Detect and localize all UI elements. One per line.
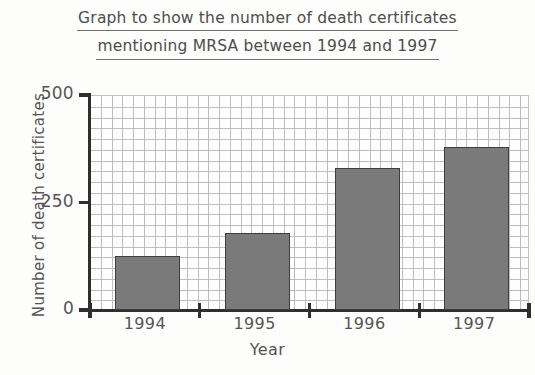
chart-title: Graph to show the number of death certif… xyxy=(0,6,535,60)
gridline-vertical xyxy=(327,96,328,311)
chart-title-line-1: Graph to show the number of death certif… xyxy=(77,7,458,31)
gridline-vertical xyxy=(112,96,113,311)
gridline-vertical xyxy=(198,96,199,311)
y-axis-title: Number of death certificates xyxy=(30,90,48,320)
x-axis-tick-label: 1994 xyxy=(105,314,185,333)
gridline-vertical xyxy=(305,96,306,311)
x-axis-title: Year xyxy=(0,340,535,359)
bar-1997 xyxy=(444,147,509,310)
bar-1994 xyxy=(115,256,180,310)
x-axis-tick xyxy=(198,303,201,318)
chart-title-line-2: mentioning MRSA between 1994 and 1997 xyxy=(96,35,438,59)
y-axis-tick xyxy=(79,93,91,96)
gridline-vertical xyxy=(413,96,414,311)
gridline-vertical xyxy=(208,96,209,311)
gridline-vertical xyxy=(402,96,403,311)
gridline-vertical xyxy=(316,96,317,311)
x-axis-tick-label: 1997 xyxy=(434,314,514,333)
x-axis-tick xyxy=(308,303,311,318)
bar-1995 xyxy=(225,233,290,310)
gridline-vertical xyxy=(294,96,295,311)
x-axis-tick xyxy=(527,303,530,318)
gridline-vertical xyxy=(434,96,435,311)
y-axis-tick xyxy=(79,201,91,204)
x-axis-tick xyxy=(418,303,421,318)
gridline-vertical xyxy=(187,96,188,311)
bar-chart-figure: Graph to show the number of death certif… xyxy=(0,0,535,375)
gridline-vertical xyxy=(219,96,220,311)
x-axis-tick-label: 1995 xyxy=(215,314,295,333)
gridline-vertical xyxy=(101,96,102,311)
x-axis-tick-label: 1996 xyxy=(324,314,404,333)
gridline-vertical xyxy=(423,96,424,311)
gridline-vertical xyxy=(520,96,521,311)
x-axis-origin-tick xyxy=(88,303,91,318)
bar-1996 xyxy=(335,168,400,310)
